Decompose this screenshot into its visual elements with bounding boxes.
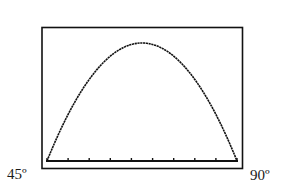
plot bbox=[0, 0, 282, 195]
plot-frame bbox=[42, 28, 243, 169]
x-min-label: 45º bbox=[7, 167, 27, 182]
x-max-label: 90º bbox=[250, 168, 270, 183]
curve-line bbox=[47, 43, 237, 161]
